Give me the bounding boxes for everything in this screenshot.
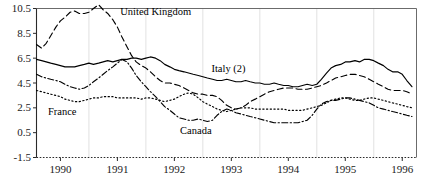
x-tick-label: 1995 bbox=[322, 164, 368, 175]
y-tick-label: -1.5 bbox=[1, 152, 31, 163]
y-tick-label: 6.5 bbox=[1, 53, 31, 64]
line-chart: -1.50.52.54.56.58.510.5 1990199119921993… bbox=[0, 0, 430, 180]
y-tick-label: 2.5 bbox=[1, 102, 31, 113]
x-tick-label: 1993 bbox=[208, 164, 254, 175]
axis-frame bbox=[37, 9, 417, 158]
x-tick-label: 1991 bbox=[94, 164, 140, 175]
axis-ticks bbox=[33, 9, 402, 162]
chart-plot-area bbox=[0, 0, 430, 180]
y-tick-label: 4.5 bbox=[1, 78, 31, 89]
series-label-france: France bbox=[48, 107, 77, 118]
x-tick-label: 1990 bbox=[37, 164, 83, 175]
y-tick-label: 8.5 bbox=[1, 28, 31, 39]
gridlines bbox=[89, 9, 374, 158]
series-line-france bbox=[37, 90, 412, 111]
x-tick-label: 1996 bbox=[379, 164, 425, 175]
y-tick-label: 10.5 bbox=[1, 3, 31, 14]
x-tick-label: 1994 bbox=[265, 164, 311, 175]
series-label-canada: Canada bbox=[180, 126, 212, 137]
x-tick-label: 1992 bbox=[151, 164, 197, 175]
series-label-united-kingdom: United Kingdom bbox=[120, 7, 191, 18]
y-tick-label: 0.5 bbox=[1, 127, 31, 138]
series-line-united-kingdom bbox=[37, 5, 412, 109]
series-label-italy-2: Italy (2) bbox=[211, 64, 245, 75]
